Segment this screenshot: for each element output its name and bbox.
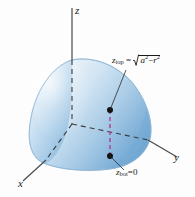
z-bot-value: 0 (133, 167, 138, 177)
x-axis-solid (23, 160, 46, 181)
math-figure-3d-hemisphere: x y z ztop = a2−r2 zbot=0 (0, 0, 195, 197)
radical-vinculum (138, 55, 160, 56)
y-axis-label: y (174, 152, 179, 163)
z-top-label: ztop = a2−r2 (112, 54, 160, 65)
hemisphere-octant-surface (29, 59, 151, 170)
z-top-subscript: top (116, 58, 124, 65)
square-root-icon: a2−r2 (133, 54, 160, 65)
z-top-equals: = (126, 55, 131, 65)
radical-sign (133, 54, 139, 66)
z-axis-label: z (75, 5, 79, 16)
surface-highlight (32, 60, 92, 140)
x-axis-label: x (18, 178, 23, 189)
y-axis-solid (148, 140, 177, 157)
figure-canvas (0, 0, 195, 197)
z-bot-subscript: bot (120, 170, 128, 177)
z-bot-label: zbot=0 (116, 168, 137, 178)
